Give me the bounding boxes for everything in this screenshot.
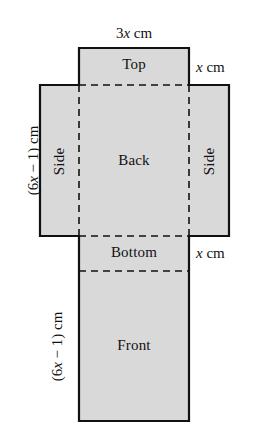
panel-label-back: Back bbox=[79, 153, 189, 168]
panel-label-front: Front bbox=[79, 338, 189, 353]
dimension-height-lower-variable: x bbox=[49, 362, 65, 369]
dimension-height-upper-variable: x bbox=[25, 176, 41, 183]
panel-label-top: Top bbox=[79, 57, 189, 72]
dimension-height-lower-rest: − 1) cm bbox=[49, 312, 65, 363]
dimension-label-width-top: 3x cm bbox=[79, 26, 189, 41]
dimension-height-upper-open: (6 bbox=[25, 183, 41, 196]
dimension-label-height-lower: (6x − 1) cm bbox=[50, 282, 65, 412]
dimension-height-lower-open: (6 bbox=[49, 369, 65, 382]
panel-label-side-left: Side bbox=[52, 129, 67, 195]
dimension-depth-top-unit: cm bbox=[206, 59, 224, 75]
box-net-figure: Top Side Back Side Bottom Front 3x cm x … bbox=[0, 0, 262, 444]
dimension-depth-top-variable: x bbox=[196, 59, 203, 75]
dimension-width-top-unit-text: cm bbox=[134, 25, 152, 41]
dimension-height-upper-rest: − 1) cm bbox=[25, 126, 41, 177]
dimension-depth-bottom-variable: x bbox=[196, 245, 203, 261]
dimension-label-height-upper: (6x − 1) cm bbox=[26, 96, 41, 226]
panel-label-side-right: Side bbox=[202, 129, 217, 195]
dimension-label-depth-bottom: x cm bbox=[196, 246, 225, 261]
dimension-depth-bottom-unit: cm bbox=[206, 245, 224, 261]
dimension-label-depth-top: x cm bbox=[196, 60, 225, 75]
panel-label-bottom: Bottom bbox=[79, 245, 189, 260]
